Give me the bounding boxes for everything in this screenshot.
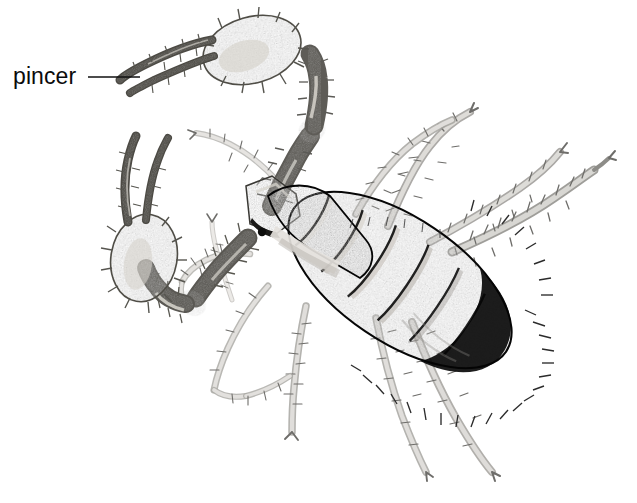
- pincer-label: pincer: [13, 63, 76, 89]
- pseudoscorpion-illustration: [0, 0, 637, 503]
- figure-root: pincer: [0, 0, 637, 503]
